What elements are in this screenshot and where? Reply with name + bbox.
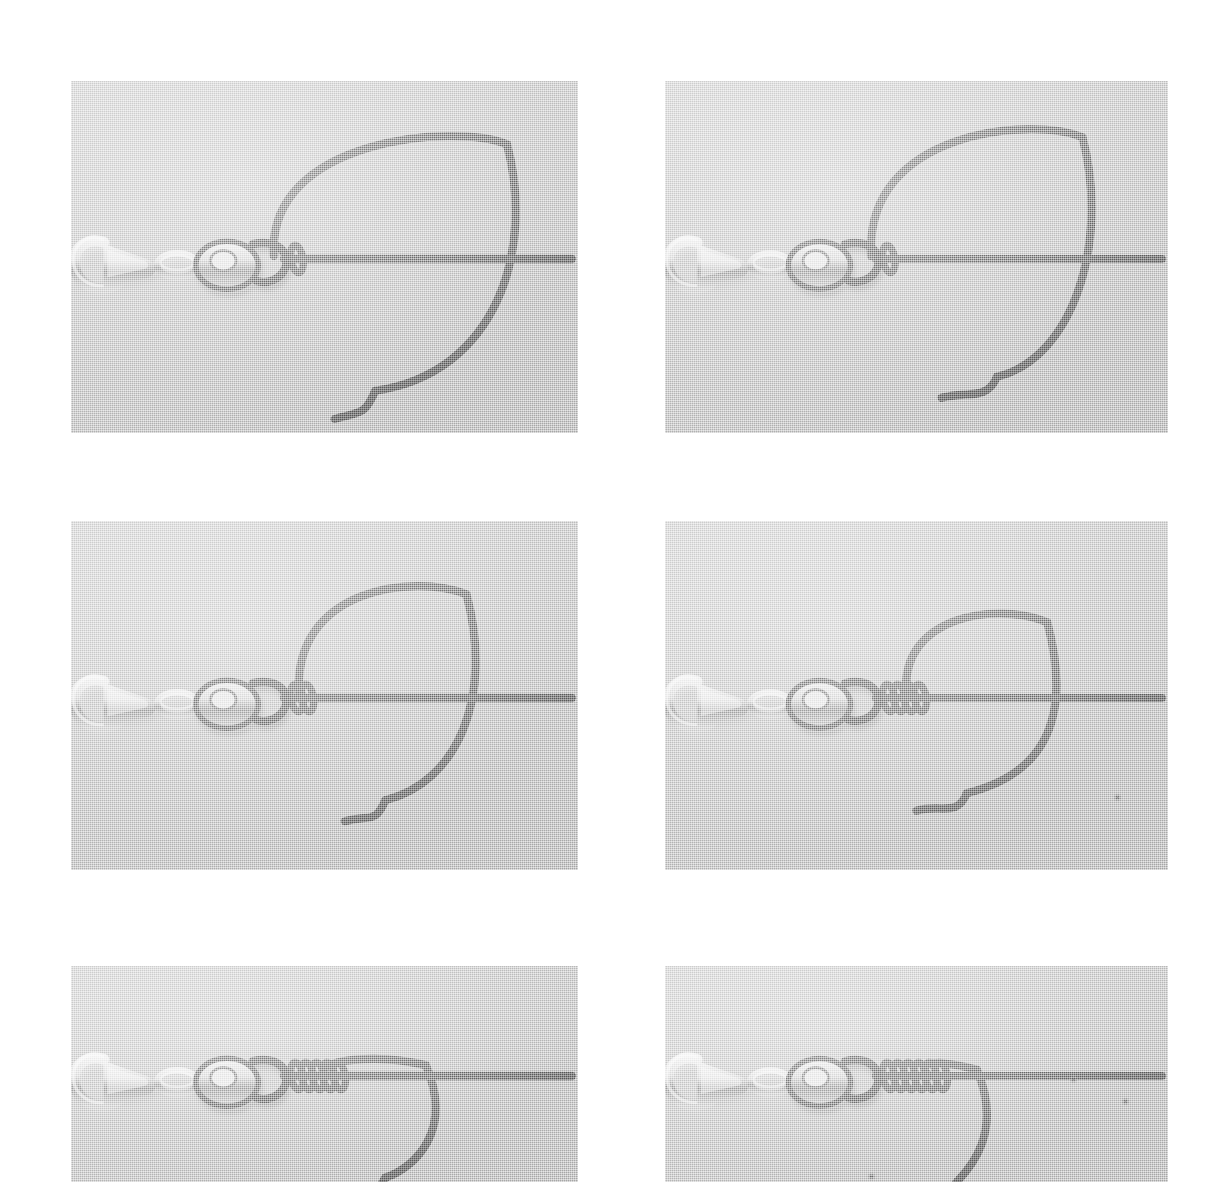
photo-panel-1 [71, 81, 578, 433]
photo-panel-5 [71, 966, 578, 1182]
knot-illustration [665, 521, 1168, 870]
knot-illustration [665, 81, 1168, 433]
photo-panel-4 [665, 521, 1168, 870]
photo-panel-3 [71, 521, 578, 870]
knot-illustration [665, 966, 1168, 1182]
photo-panel-6 [665, 966, 1168, 1182]
knot-illustration [71, 81, 578, 433]
knot-illustration [71, 966, 578, 1182]
photo-panel-2 [665, 81, 1168, 433]
knot-illustration [71, 521, 578, 870]
photo-sheet [0, 0, 1219, 1182]
